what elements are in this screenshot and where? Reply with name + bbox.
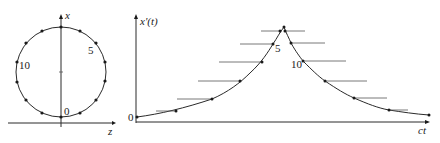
- ct-axis-label: ct: [418, 124, 427, 136]
- z-axis-label: z: [107, 125, 113, 137]
- orbit-label-10: 10: [19, 59, 31, 71]
- trajectory-label-10: 10: [291, 58, 303, 70]
- y-axis-arrow-icon: [134, 14, 138, 19]
- trajectory-label-5: 5: [275, 42, 281, 54]
- falling-segments: [285, 31, 408, 110]
- y-axis-label: x'(t): [139, 15, 158, 28]
- diagram-canvas: z x 0 5 10 x: [0, 0, 440, 143]
- origin-label: 0: [128, 111, 134, 123]
- trajectory-curve: [137, 27, 429, 117]
- z-axis-arrow-icon: [112, 121, 116, 125]
- left-orbit-panel: z x 0 5 10: [8, 9, 116, 137]
- orbit-label-5: 5: [88, 44, 94, 56]
- x-axis-label: x: [64, 9, 70, 21]
- rising-segments: [156, 31, 280, 111]
- trajectory-markers: [136, 26, 431, 119]
- orbit-label-0: 0: [64, 105, 70, 117]
- right-trajectory-panel: x'(t) ct 0: [128, 14, 431, 136]
- x-axis-arrow-icon: [59, 14, 63, 19]
